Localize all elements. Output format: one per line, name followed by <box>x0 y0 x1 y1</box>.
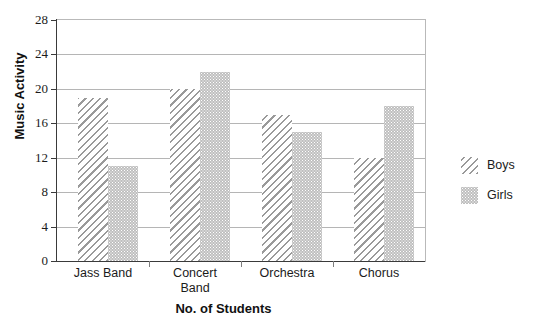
y-tick-label: 4 <box>22 219 48 235</box>
bar-boys-orchestra <box>262 115 292 261</box>
y-tick-label: 24 <box>22 46 48 62</box>
bar-girls-chorus <box>384 106 414 261</box>
plot-right-edge <box>425 19 426 262</box>
bar-girls-concert-band <box>200 72 230 261</box>
x-category-label-text: Orchestra <box>260 266 315 280</box>
x-category-label-text-line1: Concert <box>173 266 217 280</box>
legend-item-girls: Girls <box>461 180 547 210</box>
bar-boys-chorus <box>354 158 384 261</box>
chart-legend: Boys Girls <box>461 150 547 210</box>
gridline <box>57 54 425 55</box>
x-category-label-concert-band: Concert Band <box>149 266 241 296</box>
y-tick-label: 0 <box>22 253 48 269</box>
gridline <box>57 89 425 90</box>
y-tick-label: 16 <box>22 115 48 131</box>
legend-label-girls: Girls <box>487 188 513 202</box>
plot-area <box>57 20 425 261</box>
bar-boys-jass-band <box>78 98 108 262</box>
y-tick-label: 8 <box>22 184 48 200</box>
x-axis-title: No. of Students <box>0 301 547 316</box>
legend-swatch-girls-icon <box>461 187 478 204</box>
y-tick-label: 20 <box>22 81 48 97</box>
x-category-label-chorus: Chorus <box>333 266 425 281</box>
bar-boys-concert-band <box>170 89 200 261</box>
bar-girls-jass-band <box>108 166 138 261</box>
bar-chart: Music Activity 28 24 20 16 12 8 4 0 <box>0 0 547 325</box>
x-category-label-text-line2: Band <box>180 281 209 295</box>
y-tick-label: 28 <box>22 12 48 28</box>
legend-label-boys: Boys <box>487 158 515 172</box>
y-tick-label: 12 <box>22 150 48 166</box>
x-category-label-orchestra: Orchestra <box>241 266 333 281</box>
legend-item-boys: Boys <box>461 150 547 180</box>
bar-girls-orchestra <box>292 132 322 261</box>
legend-swatch-boys-icon <box>461 157 478 174</box>
x-category-label-text: Chorus <box>359 266 399 280</box>
x-category-label-text: Jass Band <box>74 266 132 280</box>
x-category-label-jass-band: Jass Band <box>57 266 149 281</box>
gridline <box>57 123 425 124</box>
chart-title-cropped <box>120 0 420 6</box>
